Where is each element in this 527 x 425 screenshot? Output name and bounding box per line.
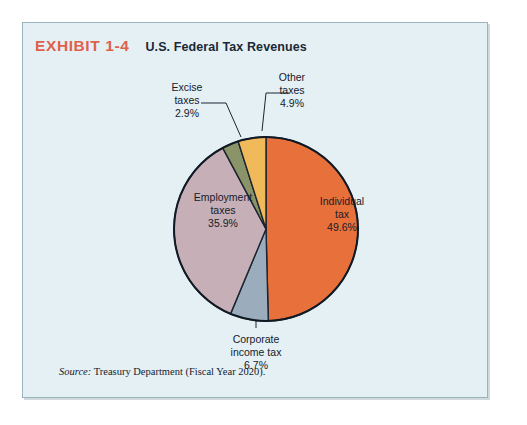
source-text: Treasury Department (Fiscal Year 2020). xyxy=(94,366,266,377)
pie-label-excise-taxes: Excise taxes 2.9% xyxy=(155,81,219,120)
pie-label-corporate-income-tax-name: Corporate xyxy=(201,333,311,346)
pie-label-employment-taxes-name: Employment xyxy=(171,191,275,204)
pie-chart: Excise taxes 2.9% Other taxes 4.9% Emplo… xyxy=(23,23,489,399)
source-label: Source: xyxy=(59,366,91,377)
pie-label-other-taxes: Other taxes 4.9% xyxy=(261,71,323,110)
pie-label-corporate-income-tax-name2: income tax xyxy=(201,346,311,359)
pie-label-individual-tax-name2: tax xyxy=(301,208,383,221)
pie-label-excise-taxes-value: 2.9% xyxy=(155,107,219,120)
pie-label-excise-taxes-name2: taxes xyxy=(155,94,219,107)
exhibit-panel: EXHIBIT 1-4 U.S. Federal Tax Revenues xyxy=(22,22,488,398)
pie-label-individual-tax-value: 49.6% xyxy=(301,221,383,234)
source-note: Source: Treasury Department (Fiscal Year… xyxy=(59,366,265,377)
pie-label-other-taxes-name2: taxes xyxy=(261,84,323,97)
pie-label-individual-tax-name: Individual xyxy=(301,195,383,208)
pie-label-employment-taxes-value: 35.9% xyxy=(171,217,275,230)
pie-label-other-taxes-name: Other xyxy=(261,71,323,84)
pie-label-other-taxes-value: 4.9% xyxy=(261,97,323,110)
pie-label-employment-taxes: Employment taxes 35.9% xyxy=(171,191,275,230)
pie-label-individual-tax: Individual tax 49.6% xyxy=(301,195,383,234)
pie-label-employment-taxes-name2: taxes xyxy=(171,204,275,217)
pie-label-excise-taxes-name: Excise xyxy=(155,81,219,94)
